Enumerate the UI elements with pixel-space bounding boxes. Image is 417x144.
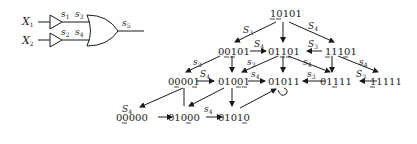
or-gate-icon (87, 15, 118, 46)
node-01011: 01011 (268, 76, 300, 87)
edge-label-diag4: s4 (303, 57, 312, 68)
self-loop-icon (278, 88, 287, 95)
edge-label-row3-a: S4 (122, 104, 132, 115)
node-11101: 11101 (325, 46, 357, 57)
node-01000: 01000 (168, 112, 200, 123)
edge-labels: S3 S4 S4 S3 s3 s3 s4 s4 S4 s4 s3 S3 S4 s… (122, 21, 368, 115)
edge-label-row2-d: S3 (356, 69, 366, 80)
edge-label-diag2: s3 (247, 57, 256, 68)
output-s5-label: s5 (122, 18, 131, 29)
edge-label-diag1: s3 (193, 57, 202, 68)
edge-label-row2-a: S4 (200, 69, 210, 80)
node-10101: 10101 (270, 8, 302, 19)
node-00101: 00101 (218, 46, 250, 57)
node-01010: 01010 (218, 112, 250, 123)
circuit (38, 15, 144, 47)
circuit-labels: X1 X2 s1 s2 s3 s4 s5 (21, 9, 131, 47)
gate-s3-label: s3 (75, 9, 84, 20)
edge-label-row2-c: s3 (307, 69, 316, 80)
node-01001: 01001 (218, 76, 250, 87)
node-11111: 11111 (370, 76, 402, 87)
buffer-s1-label: s1 (61, 9, 69, 20)
edge-label-row2-b: s4 (251, 69, 260, 80)
edge-label-top-left: S3 (243, 25, 253, 36)
edge-label-row1-left: S4 (254, 39, 264, 50)
input-x1-label: X1 (21, 15, 34, 28)
edge-label-row3-b: s4 (204, 104, 213, 115)
input-x2-label: X2 (21, 34, 34, 47)
diagram-canvas: X1 X2 s1 s2 s3 s4 s5 (0, 0, 417, 144)
edge-label-row1-right: S3 (308, 39, 318, 50)
graph-edges (140, 22, 378, 117)
node-01101: 01101 (268, 46, 300, 57)
buffer-s2-label: s2 (61, 27, 70, 38)
node-00001: 00001 (168, 76, 200, 87)
gate-s4-label: s4 (75, 27, 84, 38)
edge-label-diag5: s4 (359, 57, 368, 68)
edge-label-top-right: S4 (308, 21, 318, 32)
node-01111: 01111 (320, 76, 352, 87)
